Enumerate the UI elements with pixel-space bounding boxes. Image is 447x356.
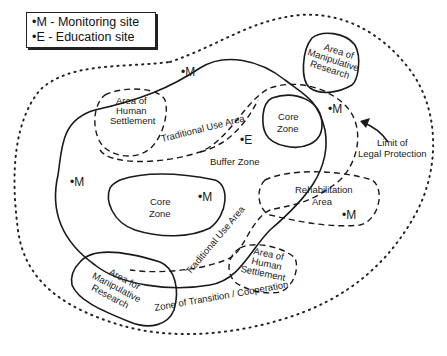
monitoring-site-marker: •M xyxy=(328,102,342,116)
biosphere-reserve-diagram: CoreZone CoreZone Buffer Zone Zone of Tr… xyxy=(0,0,447,356)
human-settlement-lower-label: Area ofHumanSettlement xyxy=(240,243,291,283)
legend-item-education: •E - Education site xyxy=(32,30,134,44)
monitoring-site-marker: •M xyxy=(198,190,212,204)
rehabilitation-label: RehabilitationArea xyxy=(295,184,353,207)
monitoring-site-marker: •M xyxy=(181,65,195,79)
education-site-marker: •E xyxy=(240,133,252,147)
legend: •M - Monitoring site •E - Education site xyxy=(26,12,156,48)
arrow-head-icon xyxy=(360,118,370,128)
core-zone-lower-label: CoreZone xyxy=(149,196,171,219)
core-zone-upper-label: CoreZone xyxy=(277,111,299,134)
monitoring-site-marker: •M xyxy=(342,208,356,222)
monitoring-site-marker: •M xyxy=(70,175,84,189)
legal-limit-label: Limit ofLegal Protection xyxy=(358,137,427,159)
buffer-zone-label: Buffer Zone xyxy=(210,156,259,167)
legend-item-monitoring: •M - Monitoring site xyxy=(32,15,139,29)
human-settlement-upper-label: Area ofHumanSettlement xyxy=(110,95,156,126)
traditional-use-label-upper: Traditional Use Area xyxy=(160,112,247,144)
transition-zone-label: Zone of Transition / Cooperation xyxy=(153,279,289,313)
traditional-use-label-lower: Traditional Use Area xyxy=(183,203,247,276)
